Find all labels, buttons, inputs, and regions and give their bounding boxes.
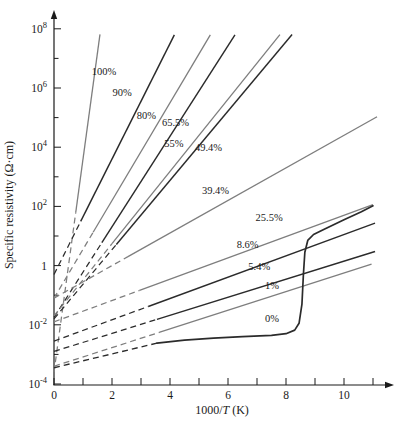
- axes: 0246810108106104102110-210-41000/T (K)Sp…: [2, 10, 394, 417]
- series-label-8.6%: 8.6%: [237, 239, 259, 250]
- y-tick-label: 10-4: [28, 375, 47, 390]
- y-tick-label: 106: [31, 79, 47, 94]
- series-label-90%: 90%: [113, 87, 133, 98]
- x-tick-label: 10: [338, 389, 350, 401]
- y-tick-label: 1: [41, 260, 47, 272]
- series-dashed-55%: [54, 244, 112, 316]
- series-labels: 100%90%80%65.5%55%49.4%39.4%25.5%8.6%5.4…: [92, 66, 283, 325]
- resistivity-vs-inverse-temperature-chart: 0246810108106104102110-210-41000/T (K)Sp…: [0, 0, 402, 433]
- x-axis-arrow-icon: [385, 382, 394, 388]
- series-label-65.5%: 65.5%: [162, 117, 189, 128]
- x-tick-label: 2: [109, 389, 115, 401]
- y-tick-label: 10-2: [28, 316, 47, 331]
- series-label-25.5%: 25.5%: [256, 212, 283, 223]
- x-tick-label: 8: [283, 389, 289, 401]
- x-tick-label: 4: [167, 389, 173, 401]
- series-lines: [54, 34, 377, 372]
- x-tick-label: 6: [225, 389, 231, 401]
- series-label-100%: 100%: [92, 66, 117, 77]
- y-tick-label: 108: [31, 20, 47, 35]
- series-dashed-0%: [54, 343, 157, 368]
- series-label-49.4%: 49.4%: [195, 142, 222, 153]
- series-label-39.4%: 39.4%: [202, 185, 229, 196]
- series-line-100%: [76, 34, 100, 212]
- series-dashed-25.5%: [54, 290, 140, 321]
- series-label-80%: 80%: [137, 110, 157, 121]
- y-axis-arrow-icon: [51, 10, 57, 19]
- y-axis-title: Specific resistivity (Ω·cm): [2, 141, 16, 269]
- series-label-55%: 55%: [164, 138, 184, 149]
- x-tick-label: 0: [51, 389, 57, 401]
- series-dashed-39.4%: [54, 257, 128, 299]
- y-tick-label: 104: [31, 138, 48, 153]
- series-label-0%: 0%: [265, 313, 279, 324]
- series-dashed-90%: [54, 221, 81, 274]
- y-tick-label: 102: [31, 197, 47, 212]
- series-label-1%: 1%: [265, 280, 279, 291]
- series-label-5.4%: 5.4%: [248, 261, 270, 272]
- resistivity-figure: 0246810108106104102110-210-41000/T (K)Sp…: [0, 0, 402, 433]
- series-dashed-1%: [54, 332, 160, 366]
- x-axis-title: 1000/T (K): [195, 403, 249, 417]
- series-dashed-8.6%: [54, 306, 148, 341]
- series-line-90%: [81, 35, 175, 221]
